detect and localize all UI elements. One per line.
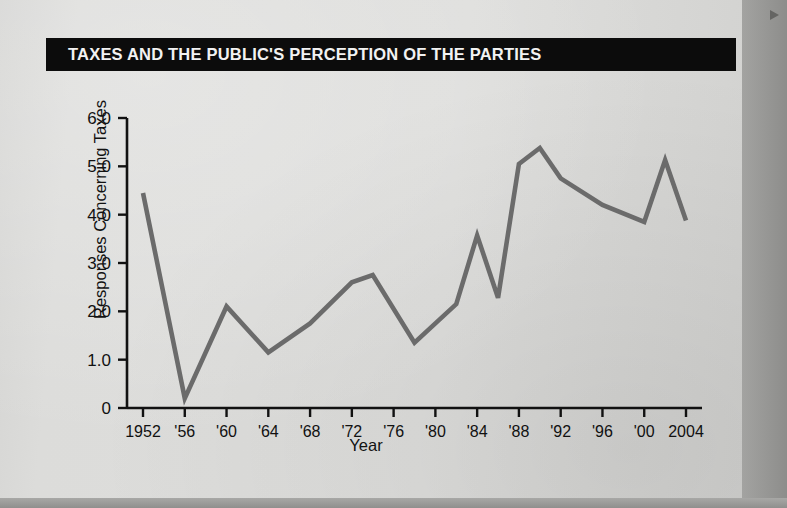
y-tick-label: 3.0 — [87, 254, 111, 273]
x-tick-label: '84 — [467, 423, 488, 440]
y-tick-label: 2.0 — [87, 302, 111, 321]
y-tick-label: 5.0 — [87, 157, 111, 176]
chart-title: TAXES AND THE PUBLIC'S PERCEPTION OF THE… — [46, 45, 541, 64]
y-tick-label: 4.0 — [87, 206, 111, 225]
y-tick-label: 6.0 — [87, 109, 111, 128]
x-tick-label: 2004 — [668, 423, 704, 440]
y-tick-label: 0 — [102, 399, 111, 418]
x-tick-label: '76 — [383, 423, 404, 440]
x-tick-label: '72 — [341, 423, 362, 440]
x-tick-label: 1952 — [125, 423, 161, 440]
page-corner-marker-icon — [770, 10, 779, 20]
x-tick-label: '80 — [425, 423, 446, 440]
chart-title-banner: TAXES AND THE PUBLIC'S PERCEPTION OF THE… — [46, 38, 736, 71]
line-chart-plot: 01.02.03.04.05.06.01952'56'60'64'68'72'7… — [46, 80, 736, 440]
x-tick-label: '60 — [216, 423, 237, 440]
page-gutter-shadow — [742, 0, 787, 508]
x-tick-label: '68 — [300, 423, 321, 440]
x-tick-label: '96 — [592, 423, 613, 440]
x-tick-label: '64 — [258, 423, 279, 440]
chart-container: Responses Concerning Taxes Year 01.02.03… — [46, 80, 736, 480]
x-tick-label: '56 — [174, 423, 195, 440]
x-tick-label: '00 — [634, 423, 655, 440]
page-bottom-edge — [0, 498, 787, 508]
x-tick-label: '88 — [508, 423, 529, 440]
x-tick-label: '92 — [550, 423, 571, 440]
scanned-page: TAXES AND THE PUBLIC'S PERCEPTION OF THE… — [0, 0, 787, 508]
data-line-responses-concerning-taxes — [143, 148, 686, 398]
y-tick-label: 1.0 — [87, 351, 111, 370]
